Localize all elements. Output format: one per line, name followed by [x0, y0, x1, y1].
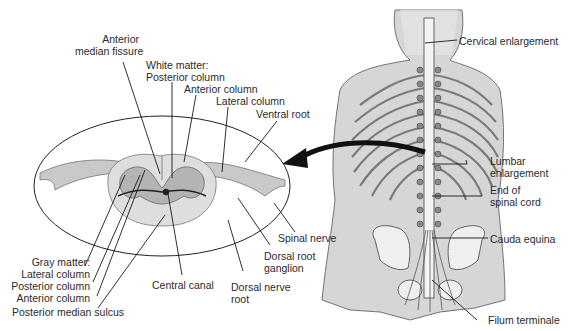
label-cervical-enlargement: Cervical enlargement [459, 35, 558, 47]
label-ventral-root: Ventral root [256, 108, 310, 120]
label-white-lateral-column: Lateral column [216, 95, 285, 107]
label-line: enlargement [490, 167, 548, 179]
label-white-posterior-column: Posterior column [146, 71, 225, 83]
label-white-matter-title: White matter: [146, 59, 208, 71]
label-end-of-spinal-cord: End of spinal cord [490, 184, 541, 208]
label-lumbar-enlargement: Lumbar enlargement [490, 155, 548, 179]
label-line: root [231, 293, 291, 305]
label-line: Dorsal nerve [231, 281, 291, 293]
label-line: Lumbar [490, 155, 548, 167]
label-dorsal-nerve-root: Dorsal nerve root [231, 281, 291, 305]
label-gray-anterior-column: Anterior column [0, 292, 90, 304]
label-gray-lateral-column: Lateral column [0, 268, 90, 280]
label-line: Anterior [75, 33, 139, 45]
label-posterior-median-sulcus: Posterior median sulcus [12, 306, 124, 318]
label-cauda-equina: Cauda equina [490, 233, 555, 245]
label-white-anterior-column: Anterior column [184, 83, 258, 95]
label-line: ganglion [264, 262, 315, 274]
label-gray-posterior-column: Posterior column [0, 280, 90, 292]
label-line: median fissure [75, 45, 139, 57]
label-line: Dorsal root [264, 250, 315, 262]
label-dorsal-root-ganglion: Dorsal root ganglion [264, 250, 315, 274]
label-spinal-nerve: Spinal nerve [278, 232, 336, 244]
label-line: End of [490, 184, 541, 196]
label-central-canal: Central canal [152, 279, 214, 291]
label-anterior-median-fissure: Anterior median fissure [75, 33, 139, 57]
label-filum-terminale: Filum terminale [488, 314, 560, 326]
torso-illustration [322, 10, 505, 320]
label-gray-matter-title: Gray matter: [0, 256, 90, 268]
label-line: spinal cord [490, 196, 541, 208]
